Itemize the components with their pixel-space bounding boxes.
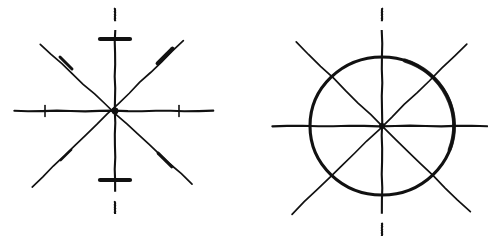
outer-circle-ink-weight <box>405 61 454 150</box>
vertical-axis-core <box>382 30 383 214</box>
eight-fold-star-axes-diagram <box>14 8 213 214</box>
center-node <box>379 123 385 129</box>
tick-diagonal-lower-right <box>158 153 171 166</box>
figure-canvas-wrapper <box>0 0 488 241</box>
diagonal-axis-sw-ne <box>292 44 467 214</box>
tick-diagonal-lower-left <box>61 150 72 161</box>
tick-diagonal-upper-right <box>158 49 173 64</box>
symmetry-figures-canvas <box>0 0 488 241</box>
circle-with-eight-fold-axes-diagram <box>272 8 487 236</box>
center-node <box>112 108 119 115</box>
